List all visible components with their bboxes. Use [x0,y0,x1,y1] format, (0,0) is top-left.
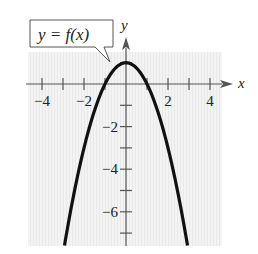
x-tick-label: −2 [76,93,92,109]
x-tick-label: −4 [34,93,50,109]
y-tick-label: −4 [102,161,118,177]
x-tick-label: 4 [206,93,214,109]
y-axis-label: y [119,17,128,33]
function-label: y = f(x) [36,25,89,44]
plot-background [28,52,222,246]
parabola-chart: −4−224−2−4−6 y = f(x) x y [0,0,258,254]
x-axis-label: x [237,75,245,91]
y-tick-label: −2 [102,119,118,135]
y-tick-label: −6 [102,204,118,220]
x-tick-label: 2 [164,93,172,109]
